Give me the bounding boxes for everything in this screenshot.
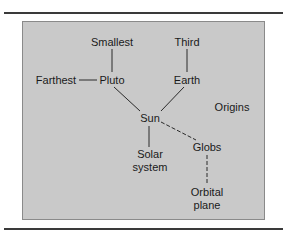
node-orbital-plane: Orbital plane [191, 186, 223, 212]
node-earth: Earth [174, 74, 200, 87]
node-farthest: Farthest [36, 74, 76, 87]
node-orbital-plane-line2: plane [191, 199, 223, 212]
edge-sun-globs [161, 122, 196, 140]
node-solar-system: Solar system [133, 148, 168, 174]
node-sun: Sun [140, 112, 160, 125]
node-origins: Origins [215, 101, 250, 114]
node-solar-system-line2: system [133, 161, 168, 174]
node-orbital-plane-line1: Orbital [191, 186, 223, 199]
edge-earth-sun [161, 87, 184, 111]
node-third: Third [174, 36, 199, 49]
node-globs: Globs [193, 141, 222, 154]
bottom-rule [4, 228, 283, 230]
edge-pluto-sun [114, 87, 140, 111]
node-solar-system-line1: Solar [133, 148, 168, 161]
node-pluto: Pluto [99, 74, 124, 87]
node-smallest: Smallest [91, 36, 133, 49]
